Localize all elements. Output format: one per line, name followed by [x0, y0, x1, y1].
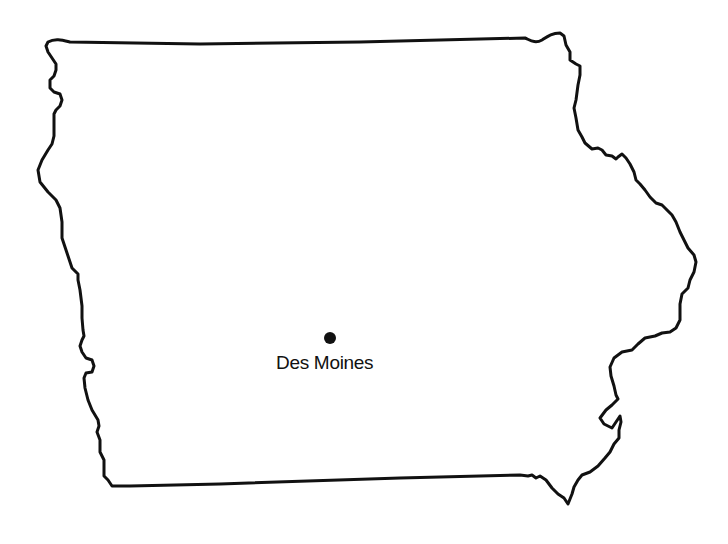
des-moines-marker: [324, 332, 336, 344]
state-map: [0, 0, 728, 544]
des-moines-label: Des Moines: [276, 352, 373, 374]
iowa-state-outline: [38, 33, 696, 504]
